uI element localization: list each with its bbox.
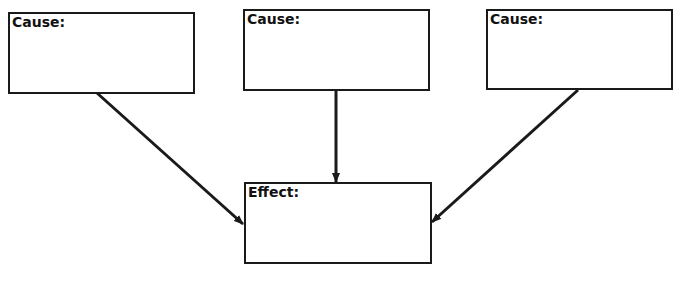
effect-label: Effect: xyxy=(248,184,299,200)
cause-label-3: Cause: xyxy=(490,11,543,27)
arrow-cause-3-to-effect xyxy=(432,90,578,222)
cause-label-2: Cause: xyxy=(247,11,300,27)
cause-box-3: Cause: xyxy=(486,9,673,90)
arrow-cause-1-to-effect xyxy=(97,93,243,224)
effect-box: Effect: xyxy=(244,182,432,264)
cause-box-1: Cause: xyxy=(8,12,195,94)
cause-label-1: Cause: xyxy=(12,14,65,30)
cause-box-2: Cause: xyxy=(243,9,430,91)
